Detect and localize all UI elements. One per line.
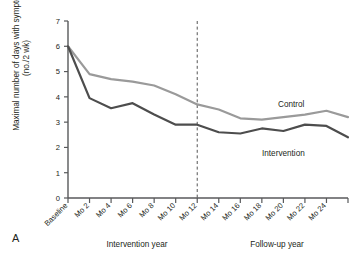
y-axis-tick-label: 3 bbox=[56, 118, 60, 127]
x-axis-tick-label: Mo 18 bbox=[242, 201, 263, 222]
x-axis-tick-label: Mo 4 bbox=[94, 201, 112, 219]
series-label-intervention: Intervention bbox=[262, 149, 305, 158]
y-axis-tick-label: 6 bbox=[56, 42, 60, 51]
y-axis-tick-label: 7 bbox=[56, 17, 60, 26]
period-label-follow-up-year: Follow-up year bbox=[250, 240, 304, 249]
x-axis-tick-label: Mo 2 bbox=[73, 201, 91, 219]
period-label-intervention-year: Intervention year bbox=[107, 240, 168, 249]
x-axis-tick-label: Mo 22 bbox=[285, 201, 306, 222]
series-line-intervention bbox=[68, 46, 348, 137]
y-axis-tick-label: 0 bbox=[56, 194, 60, 203]
series-label-control: Control bbox=[278, 100, 305, 109]
y-axis-tick-label: 4 bbox=[56, 93, 60, 102]
panel-letter: A bbox=[12, 232, 20, 244]
x-axis-tick-labels: BaselineMo 2Mo 4Mo 6Mo 8Mo 10Mo 12Mo 14M… bbox=[42, 201, 327, 228]
y-axis-label: Maximal number of days with symptoms (no… bbox=[12, 0, 32, 146]
x-axis-tick-label: Baseline bbox=[42, 201, 69, 228]
y-axis-tick-label: 5 bbox=[56, 67, 60, 76]
line-chart: 01234567 BaselineMo 2Mo 4Mo 6Mo 8Mo 10Mo… bbox=[0, 0, 363, 264]
x-axis-tick-label: Mo 16 bbox=[220, 201, 241, 222]
x-axis-tick-label: Mo 10 bbox=[156, 201, 177, 222]
x-axis-tick-label: Mo 6 bbox=[116, 201, 134, 219]
x-axis-tick-label: Mo 20 bbox=[264, 201, 285, 222]
figure-panel-a: Maximal number of days with symptoms (no… bbox=[0, 0, 363, 264]
y-axis-tick-label: 1 bbox=[56, 169, 60, 178]
x-axis-tick-label: Mo 14 bbox=[199, 201, 220, 222]
x-axis-tick-label: Mo 24 bbox=[307, 201, 328, 222]
x-axis-ticks bbox=[68, 198, 348, 203]
y-axis-tick-labels: 01234567 bbox=[56, 17, 60, 203]
x-axis-tick-label: Mo 12 bbox=[177, 201, 198, 222]
y-axis-tick-label: 2 bbox=[56, 143, 60, 152]
x-axis-tick-label: Mo 8 bbox=[137, 201, 155, 219]
